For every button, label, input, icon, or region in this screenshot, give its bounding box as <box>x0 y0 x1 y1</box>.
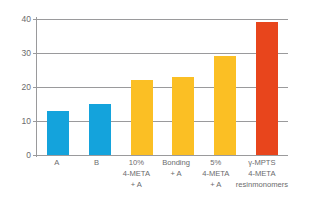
x-axis-label-line: + A <box>156 169 196 180</box>
x-axis-label: Bonding+ A <box>156 158 196 190</box>
y-tick-label: 20 <box>22 83 31 92</box>
x-axis-label-line: + A <box>116 180 156 191</box>
bar-slot <box>121 19 163 155</box>
bar-slot <box>246 19 288 155</box>
y-tick-label: 10 <box>22 117 31 126</box>
x-axis-label-line: 4-META <box>196 169 236 180</box>
bar-slot <box>204 19 246 155</box>
bar-slot <box>37 19 79 155</box>
x-axis-label: B <box>77 158 117 190</box>
y-tick-label: 40 <box>22 15 31 24</box>
x-axis-label-line: 5% <box>196 158 236 169</box>
bar <box>131 80 153 155</box>
x-axis-label-line: + A <box>196 180 236 191</box>
bar <box>47 111 69 155</box>
bar <box>89 104 111 155</box>
x-axis-label-line: 4-META <box>116 169 156 180</box>
x-axis-label-line: 4-META <box>236 169 288 180</box>
x-axis-label-line: resinmonomers <box>236 180 288 191</box>
x-axis-label: γ-MPTS4-METAresinmonomers <box>236 158 288 190</box>
x-axis-labels: AB10%4-META+ ABonding+ A5%4-META+ Aγ-MPT… <box>37 158 288 190</box>
bar-slot <box>79 19 121 155</box>
x-axis-label-line: 10% <box>116 158 156 169</box>
bar-chart-figure: 010203040 AB10%4-META+ ABonding+ A5%4-ME… <box>0 0 312 219</box>
x-axis-label-line: B <box>77 158 117 169</box>
x-axis-label-line: Bonding <box>156 158 196 169</box>
bars-layer <box>37 19 288 155</box>
y-tick-label: 30 <box>22 49 31 58</box>
bar <box>256 22 278 155</box>
y-tick-mark <box>33 155 37 156</box>
x-axis-label-line: A <box>37 158 77 169</box>
bar-slot <box>162 19 204 155</box>
bar <box>172 77 194 155</box>
x-axis-line <box>37 155 288 156</box>
x-axis-label: A <box>37 158 77 190</box>
x-axis-label: 5%4-META+ A <box>196 158 236 190</box>
bar <box>214 56 236 155</box>
x-axis-label: 10%4-META+ A <box>116 158 156 190</box>
x-axis-label-line: γ-MPTS <box>236 158 288 169</box>
y-tick-label: 0 <box>26 151 31 160</box>
